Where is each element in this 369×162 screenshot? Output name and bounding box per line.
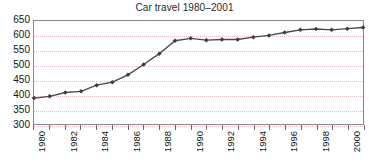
data-point-marker — [32, 96, 37, 101]
data-point-marker — [94, 83, 99, 88]
data-point-marker — [235, 37, 240, 42]
y-axis-tick-label: 400 — [2, 90, 30, 100]
data-point-marker — [204, 38, 209, 43]
y-axis-tick-label: 300 — [2, 120, 30, 130]
x-axis-tick — [96, 125, 97, 130]
data-point-marker — [110, 80, 115, 85]
y-axis-tick-label: 500 — [2, 60, 30, 70]
x-axis-tick-label: 2000 — [352, 131, 362, 152]
data-point-marker — [220, 37, 225, 42]
x-axis-tick — [254, 125, 255, 130]
x-axis-tick-label: 1984 — [100, 131, 110, 152]
data-point-marker — [251, 35, 256, 40]
x-axis-tick — [317, 125, 318, 130]
x-axis-tick — [143, 125, 144, 130]
chart-title: Car travel 1980–2001 — [0, 2, 369, 13]
x-axis-tick-label: 1994 — [258, 131, 268, 152]
x-axis-tick — [65, 125, 66, 130]
x-axis-tick-label: 1990 — [195, 131, 205, 152]
x-axis-tick — [175, 125, 176, 130]
chart-container: Car travel 1980–2001 6506005505004504003… — [0, 0, 369, 162]
data-point-marker — [345, 26, 350, 31]
x-axis-tick — [112, 125, 113, 130]
x-axis-tick — [49, 125, 50, 130]
x-axis-tick — [206, 125, 207, 130]
x-axis-tick — [269, 125, 270, 130]
data-point-marker — [298, 28, 303, 33]
y-axis-tick-label: 450 — [2, 75, 30, 85]
x-axis-tick — [80, 125, 81, 130]
x-axis-tick-label: 1998 — [321, 131, 331, 152]
x-axis-tick — [191, 125, 192, 130]
y-axis-tick-label: 650 — [2, 15, 30, 25]
y-axis-tick-label: 600 — [2, 30, 30, 40]
data-point-marker — [314, 27, 319, 32]
x-axis-tick — [128, 125, 129, 130]
x-axis-tick-label: 1996 — [289, 131, 299, 152]
x-axis-tick — [332, 125, 333, 130]
x-axis-tick-label: 1980 — [37, 131, 47, 152]
x-axis-tick — [238, 125, 239, 130]
data-point-marker — [47, 94, 52, 99]
data-point-marker — [282, 30, 287, 35]
y-axis-tick-label: 550 — [2, 45, 30, 55]
x-axis-tick-label: 1988 — [163, 131, 173, 152]
x-axis-tick-label: 1992 — [226, 131, 236, 152]
x-axis-tick-label: 1986 — [132, 131, 142, 152]
data-point-marker — [329, 28, 334, 33]
plot-area — [33, 20, 364, 125]
y-axis-labels: 650600550500450400350300 — [0, 20, 30, 125]
x-axis-tick — [285, 125, 286, 130]
x-axis-tick — [222, 125, 223, 130]
data-point-marker — [79, 89, 84, 94]
line-series — [34, 21, 363, 124]
data-point-marker — [188, 36, 193, 41]
y-axis-tick-label: 350 — [2, 105, 30, 115]
x-axis-labels: 1980198219841986198819901992199419961998… — [33, 131, 364, 162]
x-axis-tick — [33, 125, 34, 130]
x-axis-tick — [348, 125, 349, 130]
data-point-marker — [63, 90, 68, 95]
x-axis-tick-label: 1982 — [69, 131, 79, 152]
data-point-marker — [361, 25, 366, 30]
series-line — [34, 27, 363, 98]
x-axis-tick — [159, 125, 160, 130]
x-axis-tick — [301, 125, 302, 130]
data-point-marker — [267, 33, 272, 38]
x-axis-tick — [364, 125, 365, 130]
